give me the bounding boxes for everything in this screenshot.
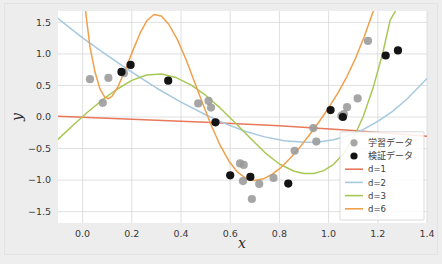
data-point <box>104 74 112 82</box>
x-axis-title: x <box>238 235 246 251</box>
y-axis-title: y <box>9 112 25 122</box>
data-point <box>291 147 299 155</box>
data-point <box>394 46 402 54</box>
scatter-plot: 0.00.20.40.60.81.01.21.4 −1.5−1.0−0.50.0… <box>5 4 437 254</box>
data-point <box>339 113 347 121</box>
data-point <box>86 75 94 83</box>
data-point <box>343 103 351 111</box>
data-point <box>240 161 248 169</box>
legend[interactable]: 学習データ検証データd=1d=2d=3d=6 <box>340 132 424 220</box>
figure-canvas: 0.00.20.40.60.81.01.21.4 −1.5−1.0−0.50.0… <box>4 3 438 255</box>
legend-marker-icon <box>350 139 357 146</box>
data-point <box>312 138 320 146</box>
data-point <box>364 37 372 45</box>
x-tick-label-1: 0.2 <box>124 228 139 239</box>
y-tick-label-3: 0.0 <box>36 111 51 122</box>
data-point <box>99 99 107 107</box>
y-tick-label-4: 0.5 <box>36 80 51 91</box>
legend-label: d=3 <box>368 191 386 201</box>
legend-label: 学習データ <box>368 137 413 148</box>
x-axis-tick-labels: 0.00.20.40.60.81.01.21.4 <box>75 228 435 239</box>
y-tick-label-0: −1.5 <box>28 206 51 217</box>
data-point <box>309 124 317 132</box>
x-tick-label-0: 0.0 <box>75 228 90 239</box>
figure-container: 0.00.20.40.60.81.01.21.4 −1.5−1.0−0.50.0… <box>0 0 442 264</box>
data-point <box>164 77 172 85</box>
data-point <box>284 179 292 187</box>
x-tick-label-3: 0.6 <box>223 228 238 239</box>
data-point <box>126 61 134 69</box>
legend-label: 検証データ <box>368 150 413 161</box>
data-point <box>226 171 234 179</box>
data-point <box>194 99 202 107</box>
x-tick-label-2: 0.4 <box>173 228 188 239</box>
legend-marker-icon <box>350 152 357 159</box>
y-tick-label-2: −0.5 <box>28 143 51 154</box>
y-axis-tick-labels: −1.5−1.0−0.50.00.51.01.5 <box>28 17 51 217</box>
legend-label: d=6 <box>368 204 386 214</box>
data-point <box>354 94 362 102</box>
data-point <box>382 51 390 59</box>
x-tick-label-4: 0.8 <box>272 228 287 239</box>
data-point <box>255 180 263 188</box>
x-tick-label-5: 1.0 <box>321 228 336 239</box>
x-tick-label-6: 1.2 <box>370 228 385 239</box>
y-tick-label-5: 1.0 <box>36 48 51 59</box>
x-tick-label-7: 1.4 <box>419 228 434 239</box>
data-point <box>246 173 254 181</box>
data-point <box>207 103 215 111</box>
data-point <box>248 195 256 203</box>
data-point <box>211 118 219 126</box>
data-point <box>326 106 334 114</box>
data-point <box>269 174 277 182</box>
legend-label: d=1 <box>368 164 386 174</box>
data-point <box>117 68 125 76</box>
y-tick-label-1: −1.0 <box>28 174 51 185</box>
y-tick-label-6: 1.5 <box>36 17 51 28</box>
data-point <box>239 177 247 185</box>
legend-label: d=2 <box>368 178 386 188</box>
